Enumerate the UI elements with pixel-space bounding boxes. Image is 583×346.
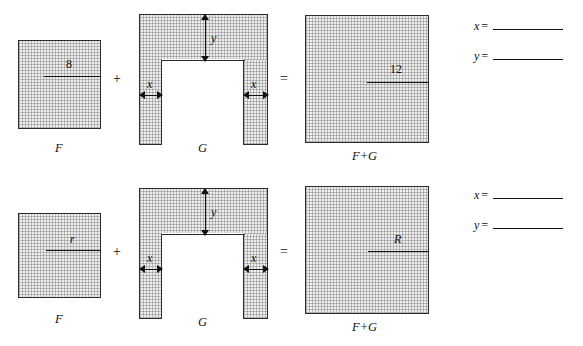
figure-g-right-width-arrow [243,265,269,273]
worksheet-sheet: 8 F + y x x [0,0,583,346]
arrow-stem [205,18,206,58]
figure-g-caption: G [198,142,207,155]
figure-g-height-arrow [201,188,209,236]
answer-x-variable: x [474,188,479,203]
figure-g-left-width-label: x [147,78,152,90]
figure-g-height-arrow [201,14,209,62]
arrow-stem [205,192,206,232]
figure-g-height-label: y [211,206,216,218]
answer-y-row-1[interactable]: y = [474,48,563,64]
figure-g-left-width-arrow [139,91,163,99]
figure-row-1: 8 F + y x x [0,0,583,173]
figure-f-measure-label: r [70,233,75,245]
arrow-head-right-icon [157,91,163,99]
arrow-head-down-icon [201,56,209,62]
figure-sum-caption: F+G [352,321,377,334]
arrow-head-down-icon [201,230,209,236]
equals-operator: = [280,72,288,86]
answer-x-blank[interactable] [493,18,563,30]
answer-x-row-1[interactable]: x = [474,18,563,34]
arrow-head-right-icon [263,91,269,99]
equals-operator: = [280,245,288,259]
figure-sum-measure-line [368,251,429,252]
figure-g-caption: G [198,316,207,329]
figure-row-2: r F + y x x [0,173,583,346]
plus-operator: + [113,245,121,259]
arch-left-leg [139,234,162,319]
figure-sum-measure-line [367,82,429,83]
answer-y-blank[interactable] [493,48,563,60]
answer-y-row-2[interactable]: y = [474,217,563,233]
arrow-head-right-icon [263,265,269,273]
figure-f-measure-label: 8 [66,58,72,70]
answer-x-blank[interactable] [493,187,563,199]
answer-y-equals: = [481,218,488,233]
figure-sum-caption: F+G [352,150,377,163]
arrow-head-right-icon [157,265,163,273]
figure-g-left-width-arrow [139,265,163,273]
figure-f-square [18,40,101,129]
arch-left-leg [139,60,162,145]
figure-f-measure-line [44,76,101,77]
figure-f-square [18,213,101,298]
answer-y-variable: y [474,218,479,233]
figure-sum-square [305,15,429,143]
answer-y-variable: y [474,49,479,64]
figure-sum-square [305,186,429,314]
figure-g-right-width-label: x [251,78,256,90]
answer-y-blank[interactable] [493,217,563,229]
figure-f-caption: F [55,142,63,155]
figure-g-height-label: y [211,32,216,44]
arch-right-leg [243,234,268,319]
figure-g-right-width-label: x [251,252,256,264]
answer-x-variable: x [474,19,479,34]
figure-sum-measure-label: 12 [390,63,402,75]
figure-sum-measure-label: R [394,233,401,245]
figure-f-caption: F [55,313,63,326]
arch-right-leg [243,60,268,145]
answer-x-equals: = [481,188,488,203]
figure-f-measure-line [46,250,101,251]
figure-g-left-width-label: x [147,252,152,264]
answer-y-equals: = [481,49,488,64]
answer-x-equals: = [481,19,488,34]
plus-operator: + [113,72,121,86]
figure-g-right-width-arrow [243,91,269,99]
answer-x-row-2[interactable]: x = [474,187,563,203]
